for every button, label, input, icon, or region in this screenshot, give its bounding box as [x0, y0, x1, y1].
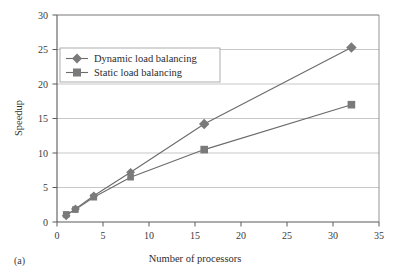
y-tick-label: 15: [38, 113, 48, 124]
x-tick-label: 0: [55, 230, 60, 241]
x-tick-labels: 0 5 10 15 20 25 30 35: [55, 230, 385, 241]
speedup-line-chart: 0 5 10 15 20 25 30 0 5 10 15 20 25 30 35…: [0, 0, 407, 275]
y-tick-label: 25: [38, 44, 48, 55]
figure-caption: (a): [14, 255, 25, 267]
y-tick-label: 10: [38, 148, 48, 159]
x-tick-label: 10: [144, 230, 154, 241]
x-tick-label: 35: [374, 230, 384, 241]
y-tick-label: 30: [38, 10, 48, 21]
x-tick-label: 25: [282, 230, 292, 241]
x-tick-label: 20: [236, 230, 246, 241]
x-axis-title: Number of processors: [149, 253, 242, 264]
legend[interactable]: Dynamic load balancing Static load balan…: [60, 48, 220, 82]
y-axis-ticks: [53, 15, 58, 222]
square-marker-icon: [73, 69, 81, 77]
data-point-marker: [200, 146, 208, 154]
y-tick-label: 20: [38, 79, 48, 90]
data-point-marker: [348, 101, 356, 109]
x-axis-ticks: [57, 222, 379, 227]
y-tick-labels: 0 5 10 15 20 25 30: [38, 10, 48, 228]
y-axis-title: Speedup: [13, 100, 24, 136]
y-tick-label: 0: [43, 217, 48, 228]
figure-container: 0 5 10 15 20 25 30 0 5 10 15 20 25 30 35…: [0, 0, 407, 275]
x-tick-label: 5: [101, 230, 106, 241]
legend-label-dynamic: Dynamic load balancing: [94, 53, 197, 64]
x-tick-label: 30: [328, 230, 338, 241]
y-tick-label: 5: [43, 182, 48, 193]
x-tick-label: 15: [190, 230, 200, 241]
legend-label-static: Static load balancing: [94, 67, 183, 78]
